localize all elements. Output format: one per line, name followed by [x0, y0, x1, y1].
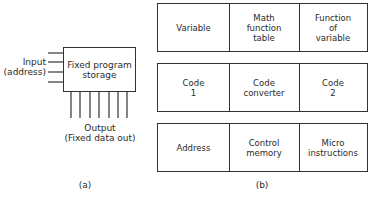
storage-label: Fixed program storage: [67, 60, 132, 80]
cell-code-converter: Code converter: [229, 64, 299, 111]
cell-control-memory: Control memory: [229, 124, 299, 171]
cell-address: Address: [158, 124, 229, 171]
cell-math-function-table: Math function table: [229, 4, 299, 51]
cell-micro-instructions: Micro instructions: [299, 124, 367, 171]
input-label: Input (address): [2, 57, 46, 77]
cell-variable: Variable: [158, 4, 229, 51]
output-lines: [71, 91, 127, 118]
cell-code-2: Code 2: [299, 64, 367, 111]
table-row-code: Code 1 Code converter Code 2: [157, 63, 368, 112]
fixed-program-storage-box: Fixed program storage: [63, 47, 136, 92]
table-row-variable: Variable Math function table Function of…: [157, 3, 368, 52]
cell-code-1: Code 1: [158, 64, 229, 111]
output-label: Output (Fixed data out): [60, 123, 140, 143]
caption-b: (b): [247, 180, 277, 190]
input-lines: [48, 53, 63, 82]
table-row-address: Address Control memory Micro instruction…: [157, 123, 368, 172]
cell-function-of-variable: Function of variable: [299, 4, 367, 51]
caption-a: (a): [70, 180, 100, 190]
